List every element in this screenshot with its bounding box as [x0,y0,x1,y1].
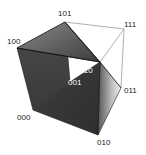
cube-diagram: 101 100 111 110 001 011 000 010 [0,0,146,155]
vertex-label-011: 011 [124,87,137,95]
vertex-label-000: 000 [17,114,30,122]
vertex-label-110: 110 [80,67,93,75]
vertex-label-111: 111 [124,21,136,29]
vertex-label-001: 001 [68,79,81,87]
vertex-label-101: 101 [58,10,71,18]
vertex-label-010: 010 [97,139,110,147]
vertex-label-100: 100 [7,38,20,46]
face-right [98,62,121,135]
